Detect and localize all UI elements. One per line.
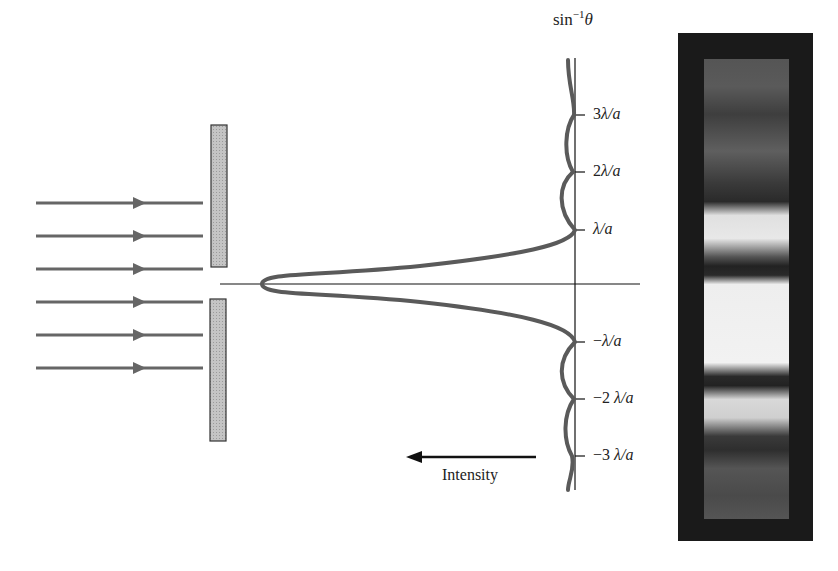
intensity-curve — [262, 60, 575, 490]
intensity-arrow-head — [406, 451, 422, 463]
tick-label-3-lambda-over-a: 3λ/a — [593, 105, 620, 123]
axis-ticks — [575, 115, 585, 456]
intensity-label: Intensity — [442, 466, 498, 484]
tick-label-minus-3-lambda-over-a: −3 λ/a — [593, 446, 633, 464]
tick-label-minus-lambda-over-a: −λ/a — [593, 332, 621, 350]
tick-label-lambda-over-a: λ/a — [593, 220, 612, 238]
fringe-pattern — [704, 59, 789, 519]
incoming-rays — [36, 197, 203, 374]
tick-label-minus-2-lambda-over-a: −2 λ/a — [593, 389, 633, 407]
upper-barrier — [211, 125, 227, 267]
diffraction-photograph — [678, 33, 813, 541]
lower-barrier — [210, 299, 226, 441]
tick-label-2-lambda-over-a: 2λ/a — [593, 162, 620, 180]
axis-title: sin−1θ — [553, 8, 593, 30]
